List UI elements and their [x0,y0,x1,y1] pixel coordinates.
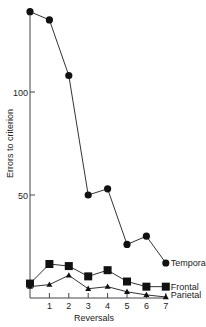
circle-marker [104,185,111,192]
x-tick-label: 1 [47,301,52,311]
line-chart: 501001234567 TemporalFrontalParietal Rev… [0,0,206,327]
circle-marker [65,72,72,79]
x-tick-label: 6 [144,301,149,311]
square-marker [104,266,112,274]
x-tick-label: 3 [86,301,91,311]
triangle-marker [105,283,111,288]
square-marker [142,283,150,291]
square-marker [123,278,131,286]
x-axis-title: Reversals [74,313,115,323]
circle-marker [123,241,130,248]
square-marker [45,260,53,268]
square-marker [162,283,170,291]
x-tick-label: 4 [105,301,110,311]
square-marker [84,272,92,280]
series-group: TemporalFrontalParietal [26,8,206,300]
y-tick-label: 100 [13,88,28,98]
circle-marker [46,16,53,23]
series-temporal: Temporal [26,8,206,268]
x-tick-label: 2 [66,301,71,311]
y-tick-label: 50 [18,191,28,201]
series-label: Temporal [171,258,206,268]
circle-marker [26,8,33,15]
circle-marker [85,191,92,198]
x-tick-label: 5 [124,301,129,311]
circle-marker [162,259,169,266]
square-marker [65,262,73,270]
labels: ReversalsErrors to criterion [5,109,115,323]
circle-marker [143,233,150,240]
axes: 501001234567 [13,8,168,311]
y-axis-title: Errors to criterion [5,109,15,178]
series-line [30,12,166,263]
triangle-marker [66,272,72,277]
series-label: Parietal [171,290,202,300]
x-tick-label: 7 [163,301,168,311]
